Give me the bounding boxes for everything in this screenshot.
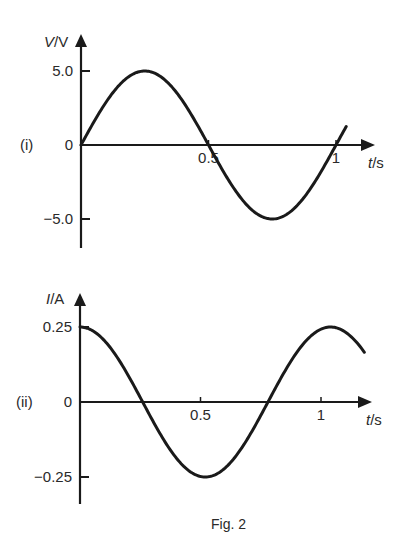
- x-axis-label: t/s: [368, 154, 384, 171]
- y-tick-label: −0.25: [34, 468, 72, 485]
- y-tick-label: −5.0: [43, 210, 73, 227]
- y-axis-arrow-icon: [75, 34, 87, 47]
- y-tick-label: 5.0: [52, 62, 73, 79]
- y-axis-arrow-icon: [74, 293, 86, 306]
- x-axis-arrow-icon: [358, 396, 372, 408]
- plot-voltage: (i) V/V t/s 5.00−5.0 0.51: [20, 33, 384, 248]
- y-tick-label: 0: [64, 393, 72, 410]
- x-axis-label: t/s: [366, 411, 382, 428]
- figure-caption: Fig. 2: [211, 516, 246, 532]
- panel-label-i: (i): [20, 136, 33, 153]
- figure: (i) V/V t/s 5.00−5.0 0.51 (ii) I/A t/s 0…: [0, 0, 414, 537]
- y-axis-label: I/A: [46, 290, 64, 307]
- plot-current: (ii) I/A t/s 0.250−0.25 0.51: [16, 290, 382, 504]
- panel-label-ii: (ii): [16, 393, 33, 410]
- y-axis-label: V/V: [44, 33, 68, 50]
- y-tick-label: 0.25: [43, 318, 72, 335]
- y-tick-label: 0: [65, 136, 73, 153]
- x-axis-arrow-icon: [361, 139, 375, 151]
- x-tick-label: 1: [317, 406, 325, 423]
- x-tick-label: 0.5: [190, 406, 211, 423]
